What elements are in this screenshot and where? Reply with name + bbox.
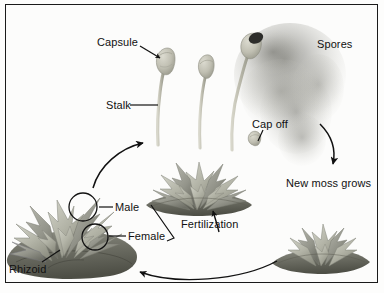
label-male: Male	[115, 201, 139, 213]
label-female: Female	[128, 230, 165, 242]
label-capsule: Capsule	[97, 36, 138, 48]
label-spores: Spores	[317, 38, 352, 50]
label-new-moss-grows: New moss grows	[286, 177, 371, 189]
label-cap-off: Cap off	[252, 118, 288, 130]
label-rhizoid: Rhizoid	[9, 263, 46, 275]
label-stalk: Stalk	[106, 99, 131, 111]
label-fertilization: Fertilization	[181, 218, 239, 230]
moss-life-cycle-figure: Capsule Stalk Spores Cap off New moss gr…	[0, 0, 384, 293]
